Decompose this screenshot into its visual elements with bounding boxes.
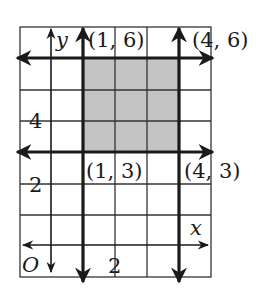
point-label-1-6: (1, 6) (88, 28, 144, 52)
y-tick-label-4: 4 (29, 109, 42, 133)
y-axis-label: y (55, 28, 69, 52)
y-tick-label-2: 2 (29, 173, 42, 197)
coordinate-plane: y x O 2 4 2 (1, 6) (4, 6) (1, 3) (4, 3) (0, 0, 265, 288)
x-axis-label: x (190, 216, 202, 240)
x-tick-label-2: 2 (108, 254, 121, 278)
point-label-4-6: (4, 6) (192, 28, 248, 52)
point-label-4-3: (4, 3) (184, 159, 240, 183)
shaded-region (83, 58, 179, 152)
origin-label: O (22, 253, 39, 277)
point-label-1-3: (1, 3) (86, 159, 142, 183)
